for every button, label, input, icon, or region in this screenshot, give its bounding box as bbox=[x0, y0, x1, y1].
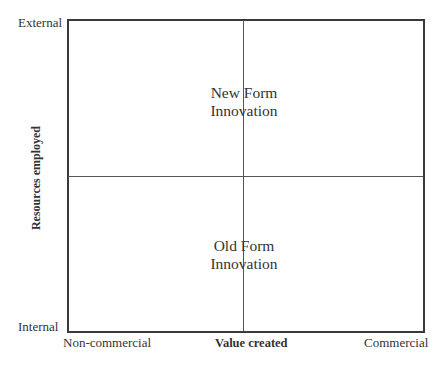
x-axis-left-label: Non-commercial bbox=[63, 336, 151, 350]
quadrant-label-line: Innovation bbox=[184, 255, 304, 273]
quadrant-label-line: New Form bbox=[184, 84, 304, 102]
y-axis-title: Resources employed bbox=[29, 126, 44, 230]
x-axis-right-label: Commercial bbox=[364, 336, 428, 350]
quadrant-label-old-form: Old Form Innovation bbox=[184, 237, 304, 273]
quadrant-label-line: Old Form bbox=[184, 237, 304, 255]
y-axis-top-label: External bbox=[18, 16, 62, 30]
horizontal-divider bbox=[68, 176, 423, 177]
x-axis-title: Value created bbox=[215, 336, 288, 350]
y-axis-bottom-label: Internal bbox=[18, 320, 58, 334]
quadrant-label-new-form: New Form Innovation bbox=[184, 84, 304, 120]
quadrant-label-line: Innovation bbox=[184, 102, 304, 120]
